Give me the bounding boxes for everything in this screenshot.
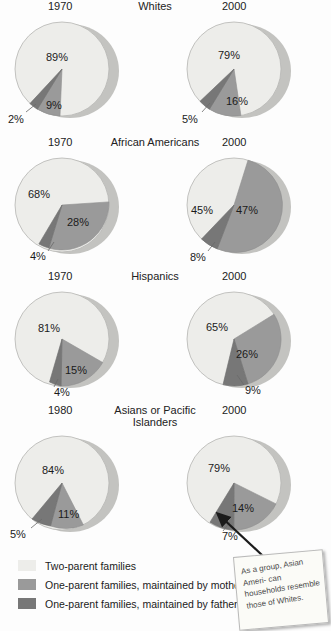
pct-mother: 9% xyxy=(46,99,62,111)
row-header: 1970 Hispanics 2000 xyxy=(0,270,331,286)
row-header: 1980 Asians or Pacific Islanders 2000 xyxy=(0,404,331,430)
year-label-left: 1970 xyxy=(48,136,72,148)
year-label-left: 1980 xyxy=(48,404,72,416)
pie-african-americans-2000: 45% 47% 8% xyxy=(180,152,300,264)
pct-mother: 15% xyxy=(65,364,87,376)
pct-mother: 16% xyxy=(226,95,248,107)
pie-chart-figure: 1970 Whites 2000 89% 9% 2% xyxy=(0,0,331,631)
pie-svg xyxy=(8,286,128,398)
year-label-right: 2000 xyxy=(222,270,246,282)
pct-two-parent: 65% xyxy=(206,321,228,333)
pie-svg xyxy=(180,286,300,398)
legend-label-two-parent: Two-parent families xyxy=(45,560,136,572)
year-label-left: 1970 xyxy=(48,270,72,282)
legend-item-two-parent: Two-parent families xyxy=(18,557,248,574)
year-label-right: 2000 xyxy=(222,0,246,12)
pct-father: 9% xyxy=(245,384,261,396)
pct-two-parent: 68% xyxy=(28,188,50,200)
pct-father: 8% xyxy=(190,251,206,263)
pie-whites-2000: 79% 16% 5% xyxy=(180,16,300,128)
pct-two-parent: 79% xyxy=(208,462,230,474)
group-label: Hispanics xyxy=(95,270,215,282)
pct-two-parent: 79% xyxy=(218,49,240,61)
pct-two-parent: 89% xyxy=(46,51,68,63)
group-label: African Americans xyxy=(95,136,215,148)
pie-whites-1970: 89% 9% 2% xyxy=(8,16,128,128)
pct-mother: 28% xyxy=(67,216,89,228)
row-header: 1970 African Americans 2000 xyxy=(0,136,331,152)
pie-asians-1980: 84% 11% 5% xyxy=(8,430,128,542)
chart-row-whites: 1970 Whites 2000 89% 9% 2% xyxy=(0,0,331,130)
year-label-left: 1970 xyxy=(48,0,72,12)
legend-swatch-mother xyxy=(18,579,36,590)
chart-row-hispanics: 1970 Hispanics 2000 81% 15% 4% xyxy=(0,270,331,400)
pct-mother: 26% xyxy=(236,348,258,360)
pct-father: 4% xyxy=(54,386,70,398)
chart-row-african-americans: 1970 African Americans 2000 68% 28% 4% xyxy=(0,136,331,266)
group-label: Whites xyxy=(95,0,215,12)
pie-hispanics-1970: 81% 15% 4% xyxy=(8,286,128,398)
chart-row-asians-pacific-islanders: 1980 Asians or Pacific Islanders 2000 84… xyxy=(0,404,331,549)
sticky-note-annotation: As a group, Asian Ameri- can households … xyxy=(233,549,329,631)
pie-svg xyxy=(8,16,128,128)
pie-svg xyxy=(8,152,128,264)
row-header: 1970 Whites 2000 xyxy=(0,0,331,16)
pct-father: 4% xyxy=(30,250,46,262)
pct-father: 5% xyxy=(10,528,26,540)
pct-father: 5% xyxy=(182,113,198,125)
legend-swatch-two-parent xyxy=(18,560,36,571)
year-label-right: 2000 xyxy=(222,404,246,416)
legend-item-father: One-parent families, maintained by fathe… xyxy=(18,595,248,612)
legend-item-mother: One-parent families, maintained by mothe… xyxy=(18,576,248,593)
pct-father: 2% xyxy=(8,113,24,125)
pct-mother: 11% xyxy=(58,508,79,520)
pct-two-parent: 45% xyxy=(191,204,213,216)
legend: Two-parent families One-parent families,… xyxy=(18,557,248,614)
pct-two-parent: 84% xyxy=(42,464,64,476)
pct-two-parent: 81% xyxy=(38,322,60,334)
legend-label-mother: One-parent families, maintained by mothe… xyxy=(45,579,243,591)
pct-mother: 47% xyxy=(236,204,258,216)
legend-label-father: One-parent families, maintained by fathe… xyxy=(45,598,238,610)
pie-svg xyxy=(180,16,300,128)
sticky-note-text: As a group, Asian Ameri- can households … xyxy=(240,554,324,612)
group-label: Asians or Pacific Islanders xyxy=(95,404,215,428)
legend-swatch-father xyxy=(18,598,36,609)
year-label-right: 2000 xyxy=(222,136,246,148)
pie-svg xyxy=(8,430,128,542)
pie-hispanics-2000: 65% 26% 9% xyxy=(180,286,300,398)
pie-african-americans-1970: 68% 28% 4% xyxy=(8,152,128,264)
